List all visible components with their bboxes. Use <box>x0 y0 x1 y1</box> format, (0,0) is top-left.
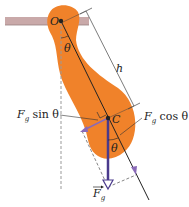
gravity-arrowhead <box>103 180 113 189</box>
vector-overbar-arrow <box>101 186 104 189</box>
label-theta-top: θ <box>64 42 71 55</box>
center-of-mass-point <box>106 116 110 120</box>
diagram-canvas: O θ h C θ Fg sin θ Fg cos θ Fg <box>0 0 189 207</box>
label-theta-bottom: θ <box>111 142 118 155</box>
fg-cos-f: F <box>143 110 152 123</box>
pendulum-diagram: O θ h C θ Fg sin θ Fg cos θ Fg <box>0 0 189 207</box>
fg-sin-f: F <box>16 108 25 121</box>
fg-cos-tail: cos θ <box>156 110 188 123</box>
label-h: h <box>116 62 123 75</box>
fg-cos-arrowhead <box>131 166 137 175</box>
fg-sin-tail: sin θ <box>29 108 59 121</box>
label-pivot-o: O <box>50 15 59 28</box>
label-gravity-fg: Fg <box>92 187 106 202</box>
gravity-sub: g <box>101 194 106 202</box>
fg-sin-arrowhead <box>80 126 88 132</box>
label-fg-cos-theta: Fg cos θ <box>143 110 189 125</box>
label-fg-sin-theta: Fg sin θ <box>16 108 59 123</box>
pivot-point <box>59 19 63 23</box>
label-center-c: C <box>112 113 121 126</box>
gravity-f: F <box>92 187 101 200</box>
